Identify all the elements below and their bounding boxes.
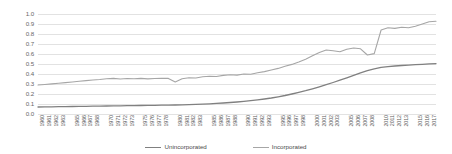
y-axis-tick-label: 0.5 xyxy=(4,61,34,67)
y-axis-tick-label: 0.8 xyxy=(4,31,34,37)
y-axis-tick-label: 0.7 xyxy=(4,41,34,47)
y-axis-tick-label: 0.9 xyxy=(4,21,34,27)
x-axis-tick-label: 1960 xyxy=(40,115,45,127)
x-axis-tick-label: 2000 xyxy=(315,115,320,127)
series-layer xyxy=(38,14,436,114)
x-axis-tick-label: 1985 xyxy=(212,115,217,127)
series-line-incorporated xyxy=(38,21,436,85)
x-axis-tick-label: 2012 xyxy=(397,115,402,127)
x-axis-tick-label: 1998 xyxy=(301,115,306,127)
chart-legend: UnincorporatedIncorporated xyxy=(0,141,452,154)
x-axis-tick-label: 1970 xyxy=(109,115,114,127)
legend-label: Incorporated xyxy=(272,144,307,150)
x-axis-tick-label: 1972 xyxy=(123,115,128,127)
plot-area xyxy=(38,14,436,114)
y-axis-tick-label: 1.0 xyxy=(4,11,34,17)
x-axis-tick-label: 1980 xyxy=(178,115,183,127)
x-axis-tick-label: 1987 xyxy=(226,115,231,127)
x-axis-tick-label: 1986 xyxy=(219,115,224,127)
x-axis-tick-label: 1971 xyxy=(116,115,121,127)
x-axis-tick-label: 1990 xyxy=(246,115,251,127)
x-axis-tick-label: 2005 xyxy=(349,115,354,127)
x-axis-tick-label: 1988 xyxy=(233,115,238,127)
x-axis-tick-label: 2008 xyxy=(370,115,375,127)
y-axis-tick-label: 0.1 xyxy=(4,101,34,107)
x-axis-tick-label: 1982 xyxy=(191,115,196,127)
x-axis-tick-label: 1962 xyxy=(54,115,59,127)
x-axis-tick-label: 1992 xyxy=(260,115,265,127)
legend-label: Unincorporated xyxy=(164,144,206,150)
x-axis-tick-label: 1993 xyxy=(267,115,272,127)
x-axis-tick-label: 1976 xyxy=(150,115,155,127)
line-chart: 1960196119621963196519661967196819701971… xyxy=(0,0,452,154)
x-axis-tick-label: 2015 xyxy=(418,115,423,127)
series-line-unincorporated xyxy=(38,64,436,107)
x-axis-tick-label: 1977 xyxy=(157,115,162,127)
x-axis-tick-label: 2017 xyxy=(432,115,437,127)
x-axis-tick-label: 2006 xyxy=(356,115,361,127)
legend-item[interactable]: Unincorporated xyxy=(145,144,206,150)
x-axis-tick-label: 2016 xyxy=(425,115,430,127)
y-axis-tick-label: 0.3 xyxy=(4,81,34,87)
x-axis-tick-label: 2013 xyxy=(404,115,409,127)
x-axis-tick-label: 2011 xyxy=(390,115,395,126)
y-axis-tick-label: 0.4 xyxy=(4,71,34,77)
x-axis-tick-label: 2007 xyxy=(363,115,368,127)
x-axis-tick-label: 1978 xyxy=(164,115,169,127)
legend-line-swatch xyxy=(145,147,161,148)
y-axis-tick-label: 0.6 xyxy=(4,51,34,57)
x-axis-tick-label: 1973 xyxy=(130,115,135,127)
x-axis-tick-label: 1991 xyxy=(253,115,258,127)
y-axis-tick-label: 0.0 xyxy=(4,111,34,117)
x-axis-tick-label: 1975 xyxy=(143,115,148,127)
x-axis-tick-label: 1963 xyxy=(61,115,66,127)
x-axis: 1960196119621963196519661967196819701971… xyxy=(38,115,436,141)
legend-item[interactable]: Incorporated xyxy=(253,144,307,150)
x-axis-tick-label: 1965 xyxy=(75,115,80,127)
x-axis-tick-label: 1983 xyxy=(198,115,203,127)
x-axis-tick-label: 1968 xyxy=(95,115,100,127)
legend-line-swatch xyxy=(253,147,269,148)
x-axis-tick-label: 1997 xyxy=(294,115,299,127)
x-axis-tick-label: 2001 xyxy=(322,115,327,127)
y-axis-tick-label: 0.2 xyxy=(4,91,34,97)
x-axis-tick-label: 2003 xyxy=(335,115,340,127)
x-axis-tick-label: 1961 xyxy=(47,115,52,127)
